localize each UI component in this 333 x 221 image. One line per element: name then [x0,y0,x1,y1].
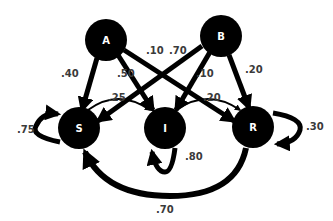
label-r-to-s: .70 [156,204,174,215]
edge-s-self-loop [35,114,60,142]
node-s-label: S [75,123,82,134]
edge-a-to-s [82,58,97,110]
edge-r-self-loop [273,113,300,144]
label-b-to-s: .70 [169,45,187,56]
node-b-label: B [217,31,225,42]
label-b-to-r: .20 [245,64,263,75]
node-a: A [85,19,127,61]
node-b: B [200,15,242,57]
label-s-self-loop: .75 [17,124,35,135]
label-i-to-r: .20 [203,92,221,103]
node-i-label: I [163,123,167,134]
label-a-to-i: .50 [117,68,135,79]
diagram-svg: A B S I R .40 .50 .10 .70 .10 .20 .25 .2… [0,0,333,221]
node-r-label: R [249,122,257,133]
label-a-to-s: .40 [61,68,79,79]
node-r: R [232,106,274,148]
label-s-to-i: .25 [108,92,126,103]
label-a-to-r: .10 [146,45,164,56]
node-s: S [58,107,100,149]
edge-b-to-r [229,55,249,108]
label-r-self-loop: .30 [306,121,324,132]
label-i-self-loop: .80 [185,151,203,162]
label-b-to-i: .10 [196,68,214,79]
node-i: I [144,107,186,149]
state-diagram: A B S I R .40 .50 .10 .70 .10 .20 .25 .2… [0,0,333,221]
edge-i-self-loop [152,148,175,172]
node-a-label: A [102,35,110,46]
